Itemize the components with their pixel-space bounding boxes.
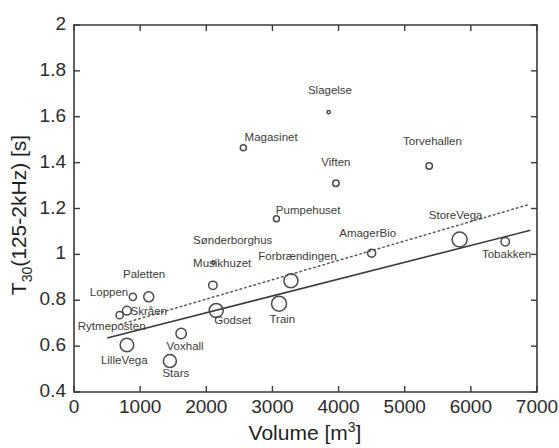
y-tick-label: 2	[55, 13, 66, 34]
data-point: Musikhuzet	[193, 257, 252, 290]
y-tick-label: 0.8	[40, 288, 66, 309]
point-marker-train	[272, 296, 287, 311]
point-marker-slagelse	[327, 111, 330, 114]
x-tick-label: 5000	[384, 396, 426, 417]
data-point: Torvehallen	[403, 135, 462, 169]
point-label-godset: Godset	[214, 314, 252, 326]
data-point: Viften	[321, 156, 350, 186]
point-label-tobakken: Tobakken	[482, 248, 531, 260]
svg-text:T30(125-2kHz) [s]: T30(125-2kHz) [s]	[7, 135, 35, 295]
point-label-loppen: Loppen	[90, 286, 128, 298]
point-label-train: Train	[269, 313, 295, 325]
x-axis-title-tail: ]	[356, 421, 362, 444]
point-marker-tobakken	[501, 238, 509, 246]
data-point: Magasinet	[240, 131, 298, 151]
point-label-voxhall: Voxhall	[167, 340, 204, 352]
point-label-musikhuzet: Musikhuzet	[193, 257, 252, 269]
y-axis-title: T30(125-2kHz) [s]	[7, 135, 35, 295]
point-marker-forbr-ndingen	[284, 274, 298, 288]
scatter-chart-figure: 0.40.60.811.21.41.61.82 0100020003000400…	[0, 0, 559, 448]
data-point: StoreVega	[429, 209, 483, 247]
point-label-stars: Stars	[162, 367, 189, 379]
y-tick-label: 0.6	[40, 334, 66, 355]
point-label-forbr-ndingen: Forbrændingen	[258, 250, 337, 262]
point-marker-torvehallen	[426, 163, 432, 169]
y-tick-label: 0.4	[40, 380, 67, 401]
y-tick-label: 1	[55, 242, 66, 263]
data-point: Slagelse	[308, 84, 352, 114]
x-axis-title-sup: 3	[348, 419, 356, 435]
point-label-skr-en: Skråen	[131, 305, 167, 317]
y-tick-label: 1.6	[40, 105, 66, 126]
point-label-viften: Viften	[321, 156, 350, 168]
point-label-storevega: StoreVega	[429, 209, 483, 221]
point-label-s-nderborghus: Sønderborghus	[193, 234, 273, 246]
x-tick-label: 0	[69, 396, 80, 417]
data-point: Skråen	[123, 305, 167, 317]
x-tick-label: 6000	[450, 396, 492, 417]
trend-lines	[107, 205, 530, 338]
x-tick-label: 4000	[317, 396, 359, 417]
x-tick-label: 3000	[251, 396, 293, 417]
point-marker-musikhuzet	[209, 281, 217, 289]
svg-text:Volume [m3]: Volume [m3]	[249, 419, 362, 444]
point-label-magasinet: Magasinet	[245, 131, 299, 143]
x-tick-labels: 01000200030004000500060007000	[69, 396, 558, 417]
y-tick-label: 1.2	[40, 197, 66, 218]
regression-line	[107, 230, 530, 338]
point-marker-amagerbio	[368, 249, 376, 257]
data-point: Voxhall	[167, 328, 204, 351]
x-tick-label: 1000	[119, 396, 161, 417]
data-point: Stars	[162, 355, 189, 380]
y-axis-title-base: T	[7, 282, 30, 295]
y-axis-title-rest: (125-2kHz) [s]	[7, 135, 30, 267]
point-marker-voxhall	[176, 328, 186, 338]
point-label-paletten: Paletten	[123, 268, 165, 280]
reference-dotted-line	[120, 205, 527, 324]
data-point: Pumpehuset	[273, 204, 341, 222]
x-axis-title: Volume [m3]	[249, 419, 362, 444]
point-marker-lillevega	[120, 338, 134, 352]
data-point: AmagerBio	[339, 227, 396, 257]
chart-svg: 0.40.60.811.21.41.61.82 0100020003000400…	[0, 0, 559, 448]
point-marker-rytmeposten	[116, 312, 123, 319]
point-label-lillevega: LilleVega	[101, 354, 148, 366]
point-label-amagerbio: AmagerBio	[339, 227, 396, 239]
y-axis-title-sub: 30	[19, 267, 35, 283]
point-marker-viften	[333, 180, 339, 186]
x-tick-label: 7000	[516, 396, 558, 417]
point-marker-paletten	[144, 292, 154, 302]
y-tick-labels: 0.40.60.811.21.41.61.82	[40, 13, 67, 401]
data-points: SlagelseMagasinetTorvehallenViftenPumpeh…	[78, 84, 531, 379]
y-tick-label: 1.4	[40, 151, 67, 172]
point-marker-magasinet	[240, 145, 246, 151]
y-tick-label: 1.8	[40, 59, 66, 80]
point-label-slagelse: Slagelse	[308, 84, 352, 96]
x-tick-label: 2000	[185, 396, 227, 417]
point-marker-loppen	[129, 293, 136, 300]
data-point: LilleVega	[101, 338, 148, 366]
point-marker-stars	[163, 355, 176, 368]
data-point: Loppen	[90, 286, 137, 300]
x-axis-title-base: Volume [m	[249, 421, 348, 444]
data-point: Train	[269, 296, 295, 325]
point-marker-pumpehuset	[273, 216, 279, 222]
point-label-torvehallen: Torvehallen	[403, 135, 462, 147]
point-marker-storevega	[452, 232, 467, 247]
point-label-pumpehuset: Pumpehuset	[276, 204, 341, 216]
point-label-rytmeposten: Rytmeposten	[78, 320, 146, 332]
